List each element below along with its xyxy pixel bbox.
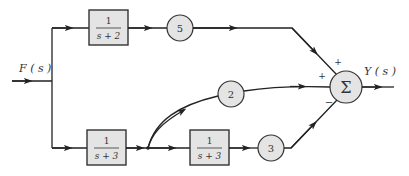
sign-top: + xyxy=(334,57,342,67)
middle-branch: 2 xyxy=(148,81,330,148)
gain-5-label: 5 xyxy=(177,23,183,34)
g2-numerator: 1 xyxy=(104,136,110,146)
g1-numerator: 1 xyxy=(106,16,112,26)
block-diagram: F ( s ) 1 s + 2 5 1 s + 3 1 s + 3 xyxy=(0,0,409,176)
top-branch: 1 s + 2 5 xyxy=(52,10,337,75)
sigma-symbol: Σ xyxy=(340,78,351,97)
output-label: Y ( s ) xyxy=(364,65,396,78)
bottom-branch: 1 s + 3 1 s + 3 3 xyxy=(52,100,337,165)
sign-bottom: − xyxy=(325,97,333,108)
g2-denominator: s + 3 xyxy=(95,151,119,161)
output-signal: Y ( s ) xyxy=(362,65,396,87)
gain-3-label: 3 xyxy=(268,143,274,154)
summing-junction: Σ + + − xyxy=(318,57,362,108)
g3-denominator: s + 3 xyxy=(198,151,222,161)
sign-left: + xyxy=(318,71,326,81)
gain-2-label: 2 xyxy=(228,89,234,100)
input-signal: F ( s ) xyxy=(12,62,52,81)
g3-numerator: 1 xyxy=(207,136,213,146)
g1-denominator: s + 2 xyxy=(97,31,121,41)
input-label: F ( s ) xyxy=(18,62,51,75)
